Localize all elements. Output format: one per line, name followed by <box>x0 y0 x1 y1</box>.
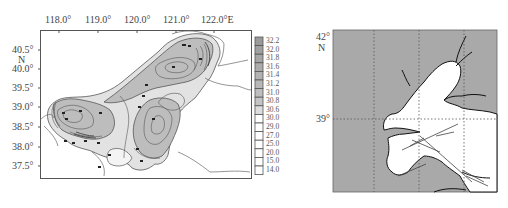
y-tick-label-40-0: 40.0° <box>12 64 34 74</box>
right-lat-label-42: 42° <box>316 32 330 42</box>
x-tick-label-119: 119.0° <box>85 15 111 25</box>
colorbar-label: 31.2 <box>266 80 279 88</box>
colorbar-label: 14.0 <box>266 166 279 174</box>
colorbar-label: 30.8 <box>266 97 279 105</box>
colorbar-label: 25.0 <box>266 140 279 148</box>
right-vector-map <box>333 30 497 192</box>
colorbar <box>255 37 263 175</box>
x-tick-label-122: 122.0°E <box>201 15 234 25</box>
y-tick-label-37-5: 37.5° <box>12 161 34 171</box>
y-tick-label-39-5: 39.5° <box>12 83 34 93</box>
right-lat-unit-n: N <box>318 43 325 53</box>
colorbar-label: 29.0 <box>266 123 279 131</box>
right-lat-label-39: 39° <box>316 114 330 124</box>
y-tick-label-38-5: 38.5° <box>12 122 34 132</box>
x-tick-label-121: 121.0° <box>163 15 190 25</box>
colorbar-label: 32.2 <box>266 37 279 45</box>
y-tick-label-39-0: 39.0° <box>12 102 34 112</box>
left-contour-map <box>0 0 508 208</box>
x-tick-label-118: 118.0° <box>45 15 71 25</box>
y-tick-label-38-0: 38.0° <box>12 142 34 152</box>
colorbar-label: 31.8 <box>266 54 279 62</box>
x-tick-label-120: 120.0° <box>124 15 151 25</box>
